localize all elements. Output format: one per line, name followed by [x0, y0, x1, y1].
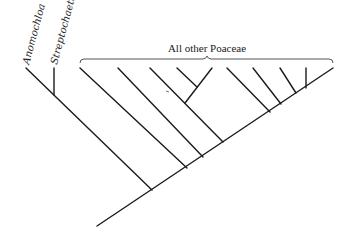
branch-poaceae-6: [280, 68, 296, 93]
clade-label-all-other-poaceae: All other Poaceae: [168, 42, 246, 54]
branch-poaceae-3b: [185, 68, 212, 103]
branch-poaceae-1: [80, 68, 187, 168]
clade-bracket: [80, 56, 333, 63]
branch-poaceae-3c: [177, 68, 197, 87]
main-spine-branch: [97, 68, 333, 226]
taxon-label-anomochloa: Anomochloa: [20, 2, 47, 66]
taxon-label-streptochaeta: Streptochaeta: [48, 0, 77, 66]
branch-anomochloa: [26, 68, 152, 190]
stray-mark: [166, 91, 169, 92]
branch-poaceae-4: [227, 68, 270, 112]
phylogenetic-tree: Anomochloa Streptochaeta All other Poace…: [0, 0, 350, 235]
branch-poaceae-3: [150, 68, 223, 142]
